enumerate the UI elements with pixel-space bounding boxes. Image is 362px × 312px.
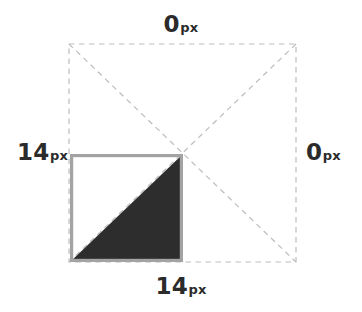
measurement-label-left: 14px — [10, 141, 68, 164]
measurement-value-bottom: 14 — [155, 273, 187, 299]
measurement-unit-bottom: px — [188, 282, 206, 297]
measurement-unit-left: px — [50, 148, 68, 163]
geometry-diagram: 0px 0px 14px 14px — [0, 0, 362, 312]
measurement-label-right: 0px — [306, 141, 358, 164]
dark-filled-triangle — [72, 156, 182, 261]
measurement-unit-top: px — [180, 20, 198, 35]
measurement-label-bottom: 14px — [0, 275, 362, 298]
measurement-label-top: 0px — [0, 13, 362, 36]
measurement-value-top: 0 — [164, 11, 180, 37]
measurement-value-right: 0 — [306, 139, 322, 165]
measurement-value-left: 14 — [17, 139, 49, 165]
measurement-unit-right: px — [323, 148, 341, 163]
